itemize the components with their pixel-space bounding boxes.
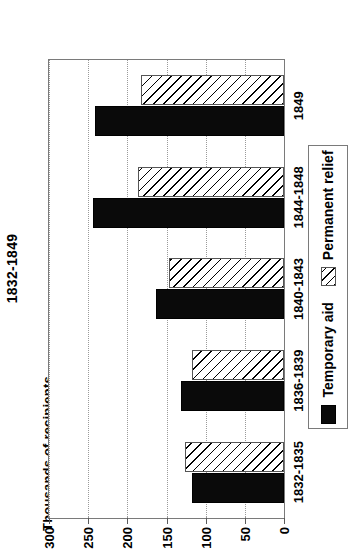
axis-tick: [245, 518, 246, 524]
bar-temporary-aid: [181, 381, 284, 411]
value-axis-tick-label: 300: [42, 527, 57, 549]
plot-area: 0501001502002503001832-18351836-18391840…: [48, 59, 285, 519]
legend-swatch-temporary-aid: [321, 405, 336, 424]
bar-permanent-relief: [141, 75, 284, 105]
axis-tick: [88, 518, 89, 524]
value-axis-tick-label: 150: [159, 527, 174, 549]
value-axis-tick-label: 200: [120, 527, 135, 549]
bar-group: 1844-1848: [49, 167, 284, 228]
legend-swatch-permanent-relief: [321, 267, 336, 286]
legend-item-permanent-relief: Permanent relief: [320, 150, 336, 286]
bar-group: 1832-1835: [49, 442, 284, 503]
value-axis-tick-label: 250: [81, 527, 96, 549]
category-axis-label: 1844-1848: [291, 166, 306, 228]
category-axis-label: 1849: [291, 91, 306, 120]
category-axis-label: 1832-1835: [291, 441, 306, 503]
bar-temporary-aid: [192, 473, 284, 503]
axis-tick: [49, 518, 50, 524]
legend-label-permanent-relief: Permanent relief: [320, 150, 336, 260]
bar-group: 1840-1843: [49, 259, 284, 320]
bar-group: 1849: [49, 75, 284, 136]
bar-group: 1836-1839: [49, 350, 284, 411]
chart-legend: Temporary aid Permanent relief: [308, 145, 348, 429]
category-axis-label: 1840-1843: [291, 258, 306, 320]
bar-permanent-relief: [169, 259, 284, 289]
bar-permanent-relief: [192, 350, 284, 380]
axis-tick: [206, 518, 207, 524]
value-axis-tick-label: 50: [237, 527, 252, 541]
axis-tick: [127, 518, 128, 524]
bar-temporary-aid: [93, 198, 284, 228]
chart-title: 1832-1849: [4, 0, 20, 537]
bar-permanent-relief: [185, 442, 284, 472]
category-axis-label: 1836-1839: [291, 350, 306, 412]
legend-item-temporary-aid: Temporary aid: [320, 302, 336, 423]
legend-label-temporary-aid: Temporary aid: [320, 302, 336, 397]
value-axis-tick-label: 0: [277, 527, 292, 534]
axis-tick: [167, 518, 168, 524]
value-axis-tick-label: 100: [198, 527, 213, 549]
bar-temporary-aid: [95, 106, 284, 136]
axis-tick: [284, 518, 285, 524]
bar-permanent-relief: [138, 167, 284, 197]
bar-temporary-aid: [156, 290, 284, 320]
